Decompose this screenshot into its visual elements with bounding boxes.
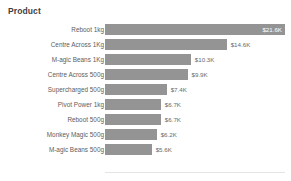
bar-row: Monkey Magic 500g$6.2K <box>0 127 291 142</box>
bar-fill[interactable] <box>105 129 157 140</box>
chart-plot-area: Reboot 1kg$21.6KCentre Across 1Kg$14.6KM… <box>0 22 291 172</box>
bar-fill[interactable] <box>105 84 167 95</box>
bar-row: Supercharged 500g$7.4K <box>0 82 291 97</box>
bar-category-label: Reboot 1kg <box>71 22 104 37</box>
axis-baseline <box>105 172 285 173</box>
bar-value-label: $6.7K <box>165 99 181 110</box>
bar-track: $21.6K <box>105 22 291 37</box>
bar-value-label: $6.2K <box>161 129 177 140</box>
bar-value-label: $10.3K <box>195 54 215 65</box>
bar-row: Centre Across 500g$9.9K <box>0 67 291 82</box>
bar-category-label: Reboot 500g <box>67 112 104 127</box>
bar-row: M-agic Beans 500g$5.6K <box>0 142 291 157</box>
bar-value-label: $6.7K <box>165 114 181 125</box>
bar-row: Centre Across 1Kg$14.6K <box>0 37 291 52</box>
bar-row: Pivot Power 1kg$6.7K <box>0 97 291 112</box>
bar-track: $10.3K <box>105 52 291 67</box>
bar-value-label: $14.6K <box>231 39 251 50</box>
bar-value-label: $7.4K <box>171 84 187 95</box>
bar-track: $5.6K <box>105 142 291 157</box>
bar-track: $9.9K <box>105 67 291 82</box>
bar-row: Reboot 1kg$21.6K <box>0 22 291 37</box>
bar-row: M-agic Beans 1Kg$10.3K <box>0 52 291 67</box>
bar-fill[interactable] <box>105 24 285 35</box>
chart-title: Product <box>8 6 41 16</box>
bar-track: $14.6K <box>105 37 291 52</box>
bar-value-label: $5.6K <box>156 144 172 155</box>
bar-row: Reboot 500g$6.7K <box>0 112 291 127</box>
bar-track: $6.7K <box>105 112 291 127</box>
bar-fill[interactable] <box>105 99 161 110</box>
bar-category-label: M-agic Beans 1Kg <box>52 52 104 67</box>
bar-category-label: M-agic Beans 500g <box>49 142 104 157</box>
bar-track: $7.4K <box>105 82 291 97</box>
product-bar-chart: Product Reboot 1kg$21.6KCentre Across 1K… <box>0 0 291 181</box>
bar-category-label: Pivot Power 1kg <box>58 97 104 112</box>
bar-category-label: Centre Across 500g <box>48 67 104 82</box>
bar-fill[interactable] <box>105 144 152 155</box>
bar-track: $6.2K <box>105 127 291 142</box>
bar-fill[interactable] <box>105 39 227 50</box>
bar-fill[interactable] <box>105 54 191 65</box>
bar-category-label: Centre Across 1Kg <box>51 37 104 52</box>
bar-track: $6.7K <box>105 97 291 112</box>
bar-fill[interactable] <box>105 114 161 125</box>
bar-category-label: Supercharged 500g <box>48 82 104 97</box>
bar-category-label: Monkey Magic 500g <box>47 127 104 142</box>
bar-value-label: $9.9K <box>192 69 208 80</box>
bar-value-label: $21.6K <box>262 24 282 35</box>
bar-fill[interactable] <box>105 69 188 80</box>
